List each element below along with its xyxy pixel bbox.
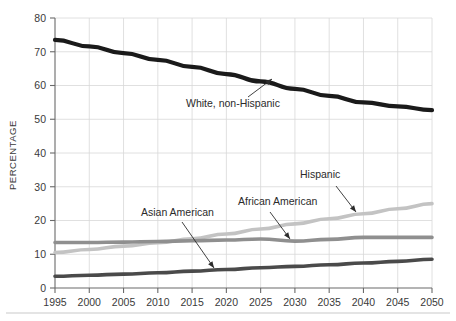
x-tick-label-2050: 2050 <box>420 296 444 308</box>
y-tick-label-70: 70 <box>34 46 46 58</box>
series-annotation-label-white-non-hispanic: White, non-Hispanic <box>186 97 280 109</box>
y-tick-label-60: 60 <box>34 79 46 91</box>
x-tick-label-1995: 1995 <box>43 296 67 308</box>
series-annotation-label-hispanic: Hispanic <box>300 168 340 180</box>
x-tick-label-2005: 2005 <box>112 296 136 308</box>
series-annotation-label-asian-american: Asian American <box>141 206 214 218</box>
y-tick-label-20: 20 <box>34 214 46 226</box>
x-tick-label-2010: 2010 <box>146 296 170 308</box>
y-tick-label-50: 50 <box>34 113 46 125</box>
population-projection-line-chart: 01020304050607080 1995200020052010201520… <box>0 0 456 321</box>
chart-figure: 01020304050607080 1995200020052010201520… <box>0 0 456 321</box>
chart-background <box>0 0 456 321</box>
series-annotation-label-african-american: African American <box>238 195 318 207</box>
y-tick-label-0: 0 <box>40 282 46 294</box>
x-tick-label-2045: 2045 <box>386 296 410 308</box>
y-tick-label-80: 80 <box>34 12 46 24</box>
x-tick-label-2020: 2020 <box>215 296 239 308</box>
x-tick-label-2030: 2030 <box>283 296 307 308</box>
x-tick-label-2040: 2040 <box>352 296 376 308</box>
x-tick-label-2035: 2035 <box>318 296 342 308</box>
y-axis-tick-labels: 01020304050607080 <box>34 12 46 294</box>
x-tick-label-2015: 2015 <box>180 296 204 308</box>
y-tick-label-40: 40 <box>34 147 46 159</box>
x-tick-label-2025: 2025 <box>249 296 273 308</box>
y-tick-label-10: 10 <box>34 248 46 260</box>
y-tick-label-30: 30 <box>34 181 46 193</box>
y-axis-title: PERCENTAGE <box>7 120 18 190</box>
x-tick-label-2000: 2000 <box>78 296 102 308</box>
